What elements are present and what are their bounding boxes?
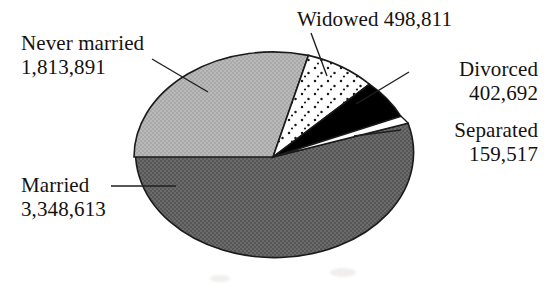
slice-label-married-name: Married [21,173,106,197]
slice-label-widowed: Widowed 498,811 [297,7,452,31]
slice-label-divorced: Divorced 402,692 [412,57,538,106]
slice-label-never-married-name: Never married [21,31,144,55]
slice-label-never-married: Never married 1,813,891 [21,31,144,80]
slice-label-married: Married 3,348,613 [21,173,106,222]
slice-label-never-married-value: 1,813,891 [21,55,144,79]
slice-label-separated-name: Separated [404,118,538,142]
slice-label-divorced-name: Divorced [412,57,538,81]
slice-label-married-value: 3,348,613 [21,197,106,221]
slice-label-separated-value: 159,517 [404,142,538,166]
pie-chart-figure: Never married 1,813,891 Married 3,348,61… [0,0,547,288]
slice-label-widowed-name: Widowed 498,811 [297,7,452,31]
slice-label-separated: Separated 159,517 [404,118,538,167]
slice-label-divorced-value: 402,692 [412,81,538,105]
